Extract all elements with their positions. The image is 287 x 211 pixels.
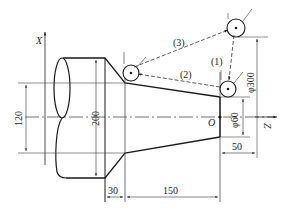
workpiece-end-upper [54,58,70,118]
tool-position-b [220,70,243,97]
dim-150-label: 150 [163,185,178,196]
dim-phi300-label: φ300 [245,72,256,93]
dim-200-label: 200 [90,111,101,126]
tool-path-1 [229,35,234,80]
path-label-3: (3) [173,37,185,49]
workpiece-end-lower [56,118,66,178]
dim-phi60-label: φ60 [229,112,240,128]
dim-30-label: 30 [108,185,118,196]
path-label-1: (1) [211,56,223,68]
z-axis-label: Z [262,123,273,129]
origin-label: O [208,117,215,128]
dim-120-label: 120 [13,111,24,126]
origin-point [218,115,221,118]
dim-50-label: 50 [232,141,242,152]
x-axis-label: X [35,35,43,46]
turning-drawing: Z X O 120 200 30 150 50 φ60 φ300 [0,0,287,211]
tool-position-start [227,9,252,37]
tool-path-2 [138,74,220,87]
workpiece-outline-lower [66,137,220,178]
path-label-2: (2) [180,69,192,81]
